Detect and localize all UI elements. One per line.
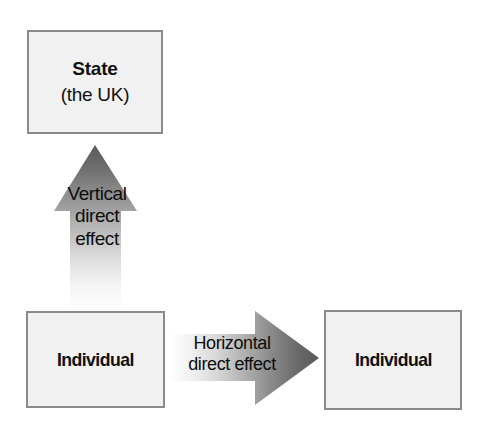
node-state-title: State: [72, 57, 117, 81]
node-individual-right-box: Individual: [324, 310, 462, 410]
diagram-canvas: Vertical direct effect Horizontal direct…: [0, 0, 482, 438]
node-state-subtitle: (the UK): [61, 83, 129, 108]
node-state-box: State (the UK): [27, 30, 163, 134]
vertical-arrow-shape: [54, 145, 137, 312]
node-individual-left-box: Individual: [26, 311, 165, 408]
node-individual-right-title: Individual: [355, 349, 432, 371]
horizontal-arrow-shape: [170, 311, 319, 405]
node-individual-left-title: Individual: [57, 349, 134, 371]
